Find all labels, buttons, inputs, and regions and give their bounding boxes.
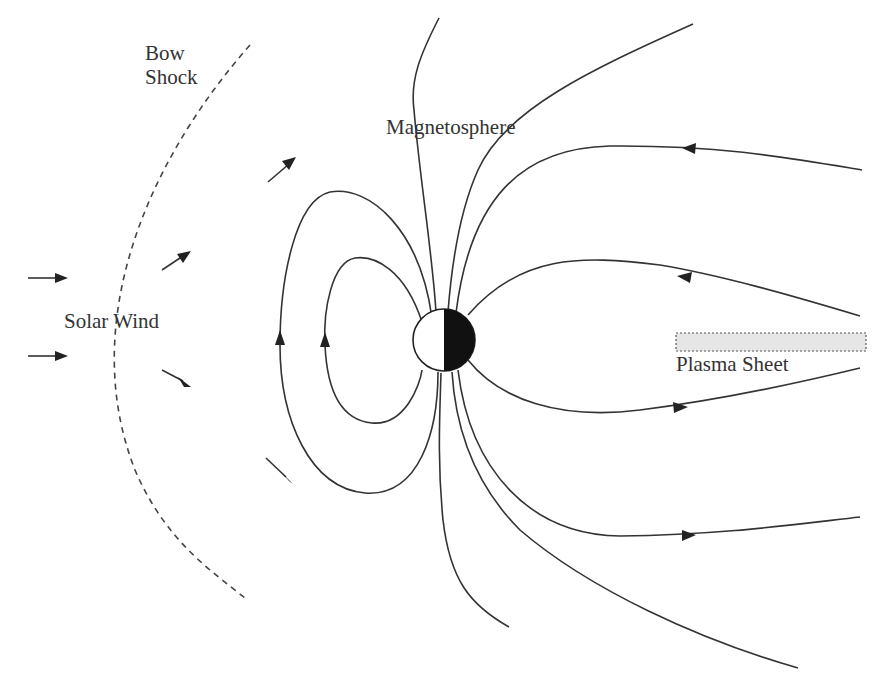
plasma-sheet-label: Plasma Sheet bbox=[676, 352, 789, 376]
plasma-sheet bbox=[676, 333, 866, 351]
bow-shock-label: Bow Shock bbox=[145, 41, 198, 89]
solar-wind-label: Solar Wind bbox=[64, 309, 159, 333]
magnetosphere-diagram bbox=[0, 0, 889, 686]
bow-shock-label-line1: Bow bbox=[145, 41, 198, 65]
magnetosphere-label: Magnetosphere bbox=[386, 115, 515, 139]
solar-wind-arrows bbox=[28, 273, 68, 361]
deflected-flow-arrows bbox=[162, 157, 296, 484]
bow-shock-label-line2: Shock bbox=[145, 65, 198, 89]
earth bbox=[413, 309, 475, 371]
